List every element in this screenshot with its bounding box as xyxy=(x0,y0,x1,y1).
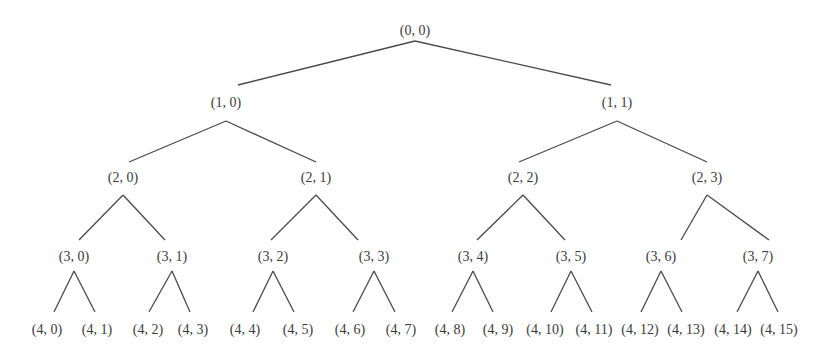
tree-edge xyxy=(172,271,190,312)
tree-node-label: (3, 1) xyxy=(157,249,188,265)
tree-node-label: (4, 6) xyxy=(335,322,366,338)
tree-node-label: (1, 0) xyxy=(211,95,242,111)
tree-node-label: (1, 1) xyxy=(602,95,633,111)
tree-node-label: (4, 12) xyxy=(621,322,659,338)
tree-node-label: (3, 3) xyxy=(359,249,390,265)
tree-edge xyxy=(737,271,758,312)
tree-node-label: (4, 9) xyxy=(483,322,514,338)
tree-edge xyxy=(273,271,294,312)
tree-edge xyxy=(758,271,778,312)
tree-edge xyxy=(519,121,617,162)
tree-node-label: (3, 6) xyxy=(646,249,677,265)
tree-edge xyxy=(681,195,707,240)
tree-edge xyxy=(617,121,707,162)
tree-edge xyxy=(226,121,316,162)
tree-node-label: (3, 4) xyxy=(458,249,489,265)
tree-node-label: (2, 3) xyxy=(692,170,723,186)
tree-node-label: (4, 5) xyxy=(283,322,314,338)
tree-node-label: (4, 4) xyxy=(230,322,261,338)
tree-node-label: (4, 13) xyxy=(667,322,705,338)
tree-node-label: (3, 0) xyxy=(59,249,90,265)
tree-edge xyxy=(477,195,523,240)
tree-edge xyxy=(74,271,95,312)
tree-edge xyxy=(661,271,682,312)
tree-edges xyxy=(54,41,778,312)
tree-edge xyxy=(571,271,592,312)
tree-node-label: (4, 15) xyxy=(760,322,798,338)
tree-node-label: (3, 5) xyxy=(556,249,587,265)
tree-node-label: (4, 11) xyxy=(576,322,613,338)
tree-node-label: (4, 2) xyxy=(133,322,164,338)
tree-edge xyxy=(473,271,493,312)
binary-tree-diagram: (0, 0)(1, 0)(1, 1)(2, 0)(2, 1)(2, 2)(2, … xyxy=(0,0,826,355)
tree-edge xyxy=(79,195,123,240)
tree-node-label: (2, 2) xyxy=(508,170,539,186)
tree-node-label: (4, 1) xyxy=(82,322,113,338)
tree-edge xyxy=(452,271,473,312)
tree-edge xyxy=(149,271,172,312)
tree-edge xyxy=(253,271,273,312)
tree-edge xyxy=(523,195,565,240)
tree-node-label: (2, 0) xyxy=(108,170,139,186)
tree-edge xyxy=(551,271,571,312)
tree-node-label: (4, 3) xyxy=(178,322,209,338)
tree-edge xyxy=(641,271,661,312)
tree-edge xyxy=(415,41,611,85)
tree-node-labels: (0, 0)(1, 0)(1, 1)(2, 0)(2, 1)(2, 2)(2, … xyxy=(32,23,798,338)
tree-edge xyxy=(238,41,415,85)
tree-edge xyxy=(316,195,358,240)
tree-edge xyxy=(707,195,769,240)
tree-edge xyxy=(374,271,395,312)
tree-node-label: (3, 2) xyxy=(258,249,289,265)
tree-edge xyxy=(129,121,226,162)
tree-edge xyxy=(123,195,165,240)
tree-node-label: (2, 1) xyxy=(301,170,332,186)
tree-node-label: (4, 10) xyxy=(526,322,564,338)
tree-node-label: (0, 0) xyxy=(400,23,431,39)
tree-node-label: (4, 7) xyxy=(386,322,417,338)
tree-node-label: (4, 8) xyxy=(435,322,466,338)
tree-node-label: (4, 14) xyxy=(714,322,752,338)
tree-node-label: (4, 0) xyxy=(32,322,63,338)
tree-edge xyxy=(54,271,74,312)
tree-node-label: (3, 7) xyxy=(743,249,774,265)
tree-edge xyxy=(353,271,374,312)
tree-edge xyxy=(271,195,316,240)
